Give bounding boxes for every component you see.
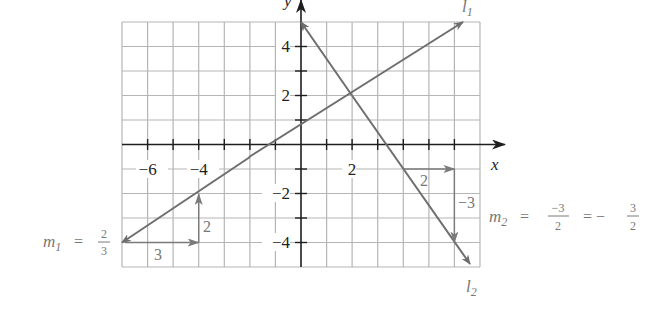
svg-text:m1: m1 bbox=[43, 232, 61, 254]
run-label-l1: 3 bbox=[154, 246, 162, 263]
svg-text:= −: = − bbox=[583, 208, 605, 225]
svg-text:3: 3 bbox=[101, 244, 107, 258]
x-axis-label: x bbox=[490, 155, 499, 174]
svg-text:2: 2 bbox=[555, 219, 561, 233]
run-label-l2: 2 bbox=[420, 172, 428, 189]
tick-label-y-neg4: −4 bbox=[272, 233, 291, 252]
svg-text:=: = bbox=[520, 208, 529, 225]
tick-label-y-2: 2 bbox=[282, 86, 291, 105]
svg-text:2: 2 bbox=[630, 219, 636, 233]
line-l2 bbox=[352, 96, 470, 265]
slope-equation-m2: m2 = −3 2 = − 3 2 bbox=[489, 201, 639, 233]
tick-label-x-neg4: −4 bbox=[190, 160, 209, 179]
tick-label-y-neg2: −2 bbox=[272, 184, 290, 203]
line-label-l1: l1 bbox=[462, 0, 473, 19]
y-axis-label: y bbox=[282, 0, 292, 10]
slope-equation-m1: m1 = 2 3 bbox=[43, 227, 110, 258]
tick-label-x-neg6: −6 bbox=[139, 160, 157, 179]
svg-text:m2: m2 bbox=[489, 207, 507, 229]
coordinate-plane: −6 −4 2 4 2 −2 −4 x y 3 2 2 −3 l1 l2 m1 … bbox=[0, 0, 658, 317]
tick-label-x-2: 2 bbox=[348, 160, 357, 179]
tick-label-y-4: 4 bbox=[282, 37, 291, 56]
svg-text:2: 2 bbox=[101, 227, 107, 241]
line-label-l2: l2 bbox=[466, 277, 477, 299]
svg-text:−3: −3 bbox=[552, 201, 565, 215]
rise-label-l2: −3 bbox=[458, 194, 475, 211]
rise-label-l1: 2 bbox=[203, 218, 211, 235]
svg-text:=: = bbox=[74, 233, 83, 250]
svg-text:3: 3 bbox=[630, 201, 636, 215]
